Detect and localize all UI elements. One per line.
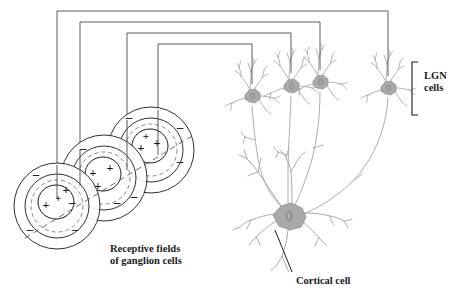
rf3-minus-2: – bbox=[176, 119, 184, 134]
rf1-minus-2: – bbox=[26, 221, 34, 236]
rf2-minus-3: – bbox=[68, 194, 76, 209]
rf3-plus-3: + bbox=[154, 136, 161, 150]
lgn-cells-label-line2: cells bbox=[424, 82, 447, 94]
rf3-minus-4: – bbox=[130, 188, 138, 203]
receptive-fields-label: Receptive fields of ganglion cells bbox=[110, 243, 182, 268]
rf1-minus-1: – bbox=[32, 166, 40, 181]
cortical-cell-label: Cortical cell bbox=[296, 275, 351, 287]
rf2-plus-3: + bbox=[95, 179, 102, 193]
rf2-plus-1: + bbox=[90, 166, 97, 180]
rf3-minus-1: – bbox=[125, 109, 133, 124]
receptive-fields-label-line2: of ganglion cells bbox=[110, 255, 182, 267]
rf1-plus-1: + bbox=[43, 198, 50, 212]
rf1-plus-2: + bbox=[55, 193, 61, 204]
rf2-minus-1: – bbox=[79, 140, 87, 155]
rf3-plus-2: + bbox=[138, 141, 145, 155]
lgn-cells-label: LGN cells bbox=[424, 70, 447, 95]
rf2-minus-2: – bbox=[113, 194, 121, 209]
rf2-plus-2: + bbox=[107, 161, 114, 175]
figure-canvas: + + + – – – + + + – – – + + + – – – – bbox=[0, 0, 457, 297]
lgn-cells-label-line1: LGN bbox=[424, 70, 447, 82]
rf3-minus-3: – bbox=[176, 153, 184, 168]
schematic-svg: + + + – – – + + + – – – + + + – – – – bbox=[0, 0, 457, 297]
rf1-minus-3: – bbox=[71, 221, 79, 236]
receptive-fields-label-line1: Receptive fields bbox=[110, 243, 182, 255]
